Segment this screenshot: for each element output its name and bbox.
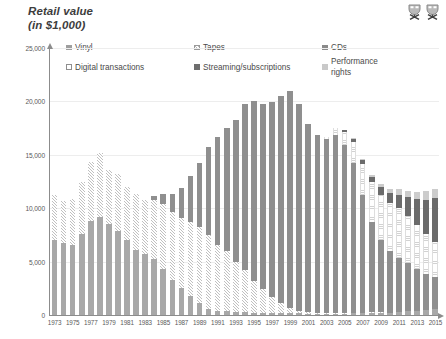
bar-column[interactable] xyxy=(95,48,104,315)
bar-segment xyxy=(170,280,176,315)
bar-segment xyxy=(305,124,311,312)
bar-segment xyxy=(414,311,420,315)
bar-column[interactable] xyxy=(340,48,349,315)
bar-column[interactable] xyxy=(413,48,422,315)
bar-stack xyxy=(305,124,311,315)
bar-stack xyxy=(414,192,420,315)
bar-column[interactable] xyxy=(104,48,113,315)
chart-icon-right[interactable] xyxy=(425,3,440,20)
bar-stack xyxy=(179,188,185,315)
bar-column[interactable] xyxy=(249,48,258,315)
bar-column[interactable] xyxy=(268,48,277,315)
bar-column[interactable] xyxy=(159,48,168,315)
bar-column[interactable] xyxy=(304,48,313,315)
bar-column[interactable] xyxy=(422,48,431,315)
bar-column[interactable] xyxy=(50,48,59,315)
bar-stack xyxy=(170,194,176,315)
bar-stack xyxy=(61,201,67,315)
bar-column[interactable] xyxy=(68,48,77,315)
bar-column[interactable] xyxy=(385,48,394,315)
x-tick-label: 1997 xyxy=(265,319,278,326)
bar-column[interactable] xyxy=(240,48,249,315)
bar-segment xyxy=(351,163,357,313)
bar-stack xyxy=(315,135,321,315)
bar-column[interactable] xyxy=(222,48,231,315)
bar-segment xyxy=(206,309,212,315)
y-tick-label: 5,000 xyxy=(29,258,45,265)
bar-column[interactable] xyxy=(376,48,385,315)
bar-stack xyxy=(432,189,438,315)
bar-stack xyxy=(97,153,103,315)
bar-segment xyxy=(278,96,284,303)
bar-stack xyxy=(269,102,275,315)
bar-stack xyxy=(360,159,366,315)
bar-segment xyxy=(115,174,121,231)
plot-area: 05,00010,00015,00020,00025,000 xyxy=(49,48,439,316)
bar-column[interactable] xyxy=(358,48,367,315)
bar-segment xyxy=(378,313,384,315)
bar-stack xyxy=(79,182,85,315)
bar-segment xyxy=(206,235,212,309)
bar-segment xyxy=(405,311,411,315)
bar-segment xyxy=(79,182,85,234)
bar-segment xyxy=(269,313,275,315)
bar-segment xyxy=(70,245,76,315)
bar-segment xyxy=(378,195,384,240)
bar-column[interactable] xyxy=(313,48,322,315)
x-tick-label: 1975 xyxy=(66,319,79,326)
x-tick-label: 1991 xyxy=(211,319,224,326)
bar-segment xyxy=(414,192,420,199)
bar-stack xyxy=(351,138,357,315)
bar-segment xyxy=(160,269,166,315)
bar-column[interactable] xyxy=(204,48,213,315)
bar-segment xyxy=(432,198,438,242)
bar-column[interactable] xyxy=(394,48,403,315)
bar-segment xyxy=(351,313,357,315)
bar-segment xyxy=(179,218,185,288)
bar-column[interactable] xyxy=(277,48,286,315)
bar-column[interactable] xyxy=(141,48,150,315)
bar-column[interactable] xyxy=(150,48,159,315)
bar-column[interactable] xyxy=(168,48,177,315)
bar-segment xyxy=(423,234,429,274)
chart-icon-left[interactable] xyxy=(407,3,422,20)
bar-stack xyxy=(52,195,58,315)
bar-column[interactable] xyxy=(59,48,68,315)
bar-column[interactable] xyxy=(195,48,204,315)
bar-column[interactable] xyxy=(431,48,440,315)
bar-column[interactable] xyxy=(367,48,376,315)
bar-segment xyxy=(206,147,212,235)
bar-column[interactable] xyxy=(286,48,295,315)
bar-column[interactable] xyxy=(132,48,141,315)
bar-segment xyxy=(124,240,130,315)
bar-column[interactable] xyxy=(403,48,412,315)
bar-column[interactable] xyxy=(123,48,132,315)
bar-column[interactable] xyxy=(213,48,222,315)
bar-column[interactable] xyxy=(258,48,267,315)
bar-column[interactable] xyxy=(231,48,240,315)
bar-column[interactable] xyxy=(77,48,86,315)
bar-segment xyxy=(378,240,384,313)
bar-segment xyxy=(269,102,275,297)
bar-column[interactable] xyxy=(331,48,340,315)
bar-segment xyxy=(342,314,348,315)
bar-column[interactable] xyxy=(349,48,358,315)
bar-column[interactable] xyxy=(322,48,331,315)
bar-column[interactable] xyxy=(186,48,195,315)
bar-column[interactable] xyxy=(177,48,186,315)
bar-segment xyxy=(151,200,157,260)
bar-segment xyxy=(305,314,311,315)
bar-segment xyxy=(360,313,366,315)
bar-segment xyxy=(315,314,321,315)
bar-segment xyxy=(179,188,185,218)
bar-column[interactable] xyxy=(86,48,95,315)
bar-segment xyxy=(405,197,411,216)
bar-column[interactable] xyxy=(295,48,304,315)
x-tick-label: 1983 xyxy=(139,319,152,326)
bar-segment xyxy=(387,313,393,315)
bar-column[interactable] xyxy=(113,48,122,315)
bar-segment xyxy=(387,203,393,251)
bar-segment xyxy=(405,216,411,263)
bar-segment xyxy=(133,194,139,250)
bar-segment xyxy=(52,240,58,315)
